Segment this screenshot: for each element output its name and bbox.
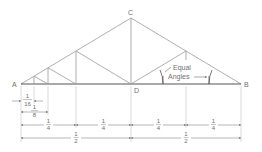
point-a-label: A	[12, 81, 17, 88]
point-b-label: B	[244, 81, 249, 88]
extension-lines	[21, 86, 241, 142]
dim-q4-den: 4	[212, 125, 216, 131]
truss-diagram: Equal Angles A B C D 1 16 1 8	[0, 0, 262, 152]
dim-q2-num: 1	[102, 118, 106, 124]
equal-angles-note: Equal Angles	[165, 64, 207, 81]
dim-16-den: 16	[24, 101, 31, 107]
dim-16-num: 1	[26, 93, 30, 99]
dim-h1-den: 2	[74, 138, 78, 144]
dim-q1-den: 4	[47, 125, 51, 131]
dim-q2-den: 4	[102, 125, 106, 131]
point-d-label: D	[134, 87, 139, 94]
dim-q4-num: 1	[212, 118, 216, 124]
dim-8-den: 8	[33, 112, 37, 118]
point-c-label: C	[128, 9, 133, 16]
dim-q3-den: 4	[157, 125, 161, 131]
angles-label: Angles	[168, 73, 190, 81]
equal-label: Equal	[173, 64, 191, 72]
dim-h2-num: 1	[184, 131, 188, 137]
dim-8-num: 1	[33, 104, 37, 110]
dim-h1-num: 1	[74, 131, 78, 137]
dim-q3-num: 1	[157, 118, 161, 124]
dim-h2-den: 2	[184, 138, 188, 144]
dim-q1-num: 1	[47, 118, 51, 124]
